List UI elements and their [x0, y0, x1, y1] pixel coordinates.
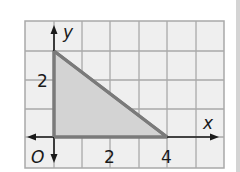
origin-label: O [31, 147, 44, 167]
x-tick-label-4: 4 [161, 147, 172, 167]
x-tick-label-2: 2 [104, 147, 115, 167]
y-axis-label: y [62, 22, 74, 42]
x-axis-label: x [202, 113, 214, 133]
y-tick-label-2: 2 [37, 71, 48, 91]
coordinate-plane: y x O 2 2 4 [0, 0, 240, 172]
